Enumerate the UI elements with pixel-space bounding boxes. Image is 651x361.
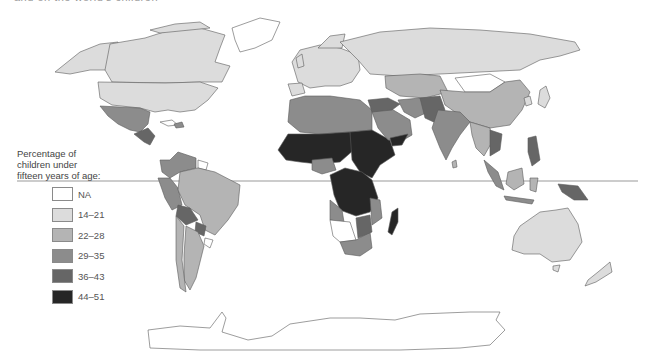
swatch-29-35 xyxy=(52,249,73,263)
legend-title-line2: children under xyxy=(17,159,117,170)
region-new-guinea xyxy=(558,184,588,200)
map-legend: Percentage of children under fifteen yea… xyxy=(17,148,117,181)
region-russia xyxy=(340,28,580,76)
legend-title-line3: fifteen years of age: xyxy=(17,170,117,181)
region-middle-east-north xyxy=(368,98,400,112)
legend-item-44-51: 44–51 xyxy=(52,287,104,308)
region-korea xyxy=(524,96,532,106)
region-uruguay xyxy=(204,238,213,248)
region-greenland xyxy=(232,18,280,52)
region-philippines xyxy=(528,136,540,166)
region-argentina xyxy=(184,226,204,290)
region-canada xyxy=(105,28,230,83)
region-madagascar xyxy=(388,208,398,235)
swatch-36-43 xyxy=(52,269,73,283)
region-namibia-botswana xyxy=(330,220,356,242)
region-australia xyxy=(512,208,582,262)
region-east-africa-south xyxy=(370,198,382,225)
legend-item-29-35: 29–35 xyxy=(52,246,104,267)
legend-title: Percentage of children under fifteen yea… xyxy=(17,148,117,181)
region-north-africa xyxy=(288,96,372,134)
legend-item-14-21: 14–21 xyxy=(52,205,104,226)
region-iberia xyxy=(288,83,305,96)
region-scandinavia xyxy=(318,34,345,48)
swatch-na xyxy=(52,187,73,201)
region-brazil xyxy=(178,168,240,235)
legend-label: 29–35 xyxy=(78,250,104,261)
legend-item-36-43: 36–43 xyxy=(52,266,104,287)
region-mexico xyxy=(100,106,150,132)
region-japan xyxy=(538,86,550,108)
region-antarctica xyxy=(148,312,505,350)
swatch-44-51 xyxy=(52,290,73,304)
region-indochina xyxy=(490,130,502,156)
legend-title-line1: Percentage of xyxy=(17,148,117,159)
legend-item-na: NA xyxy=(52,184,104,205)
region-tasmania xyxy=(553,265,560,272)
legend-label: 14–21 xyxy=(78,209,104,220)
region-java xyxy=(504,196,534,204)
swatch-14-21 xyxy=(52,208,73,222)
legend-label: 22–28 xyxy=(78,230,104,241)
region-borneo xyxy=(506,168,524,190)
region-nigeria-area xyxy=(312,158,336,174)
legend-item-22-28: 22–28 xyxy=(52,225,104,246)
region-india xyxy=(432,110,470,160)
region-new-zealand xyxy=(585,262,612,286)
legend-label: 36–43 xyxy=(78,271,104,282)
region-sri-lanka xyxy=(452,160,457,168)
region-sulawesi xyxy=(530,178,538,192)
legend-label: NA xyxy=(78,189,91,200)
region-central-asia xyxy=(385,74,448,98)
swatch-22-28 xyxy=(52,228,73,242)
legend-items: NA 14–21 22–28 29–35 36–43 44–51 xyxy=(52,184,104,307)
region-sumatra xyxy=(484,160,504,190)
legend-label: 44–51 xyxy=(78,291,104,302)
